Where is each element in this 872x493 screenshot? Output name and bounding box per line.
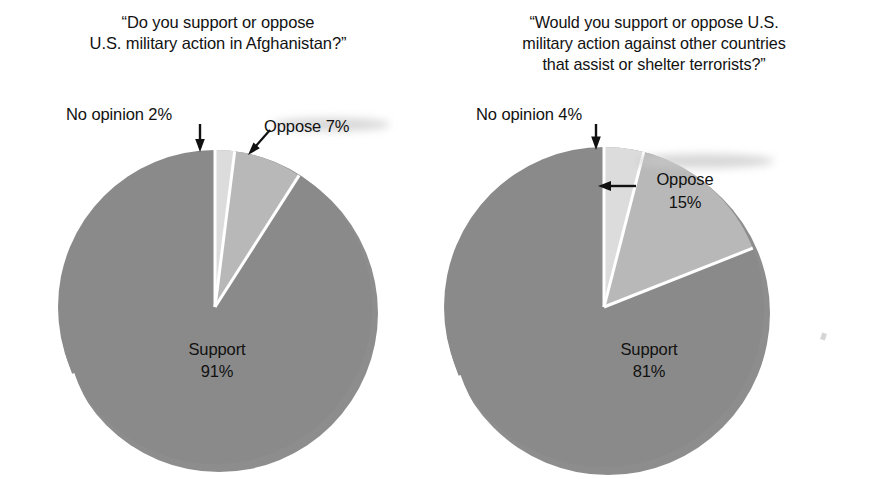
- no-opinion-arrow: [591, 124, 601, 150]
- chart-panel-other-countries: “Would you support or oppose U.S. milita…: [436, 0, 872, 493]
- chart-panel-afghanistan: “Do you support or oppose U.S. military …: [0, 0, 436, 493]
- pie-other-countries: [436, 0, 872, 493]
- callout-no-opinion-afghanistan: No opinion 2%: [66, 104, 172, 124]
- callout-oppose-other-countries: Oppose 15%: [642, 168, 728, 214]
- callout-no-opinion-other-countries: No opinion 4%: [476, 104, 582, 124]
- pie-afghanistan: [0, 0, 436, 493]
- pie-chart-figure: “Do you support or oppose U.S. military …: [0, 0, 872, 493]
- label-support-other-countries: Support 81%: [554, 338, 744, 382]
- no-opinion-arrow: [195, 124, 205, 152]
- callout-oppose-afghanistan: Oppose 7%: [264, 116, 349, 136]
- label-support-afghanistan: Support 91%: [122, 338, 312, 382]
